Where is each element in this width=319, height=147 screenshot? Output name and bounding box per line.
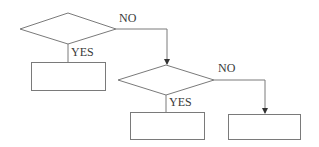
decision-diamond-1 [20, 13, 116, 44]
flowchart [0, 0, 319, 147]
arrowhead-icon [262, 108, 268, 114]
edge-label-yes-1: YES [71, 46, 94, 58]
process-box-2 [131, 113, 205, 140]
edge-label-yes-2: YES [169, 96, 192, 108]
arrowhead-icon [164, 59, 170, 65]
decision-diamond-2 [118, 65, 214, 95]
edge-label-no-2: NO [218, 62, 235, 74]
connector-no-2 [214, 80, 265, 113]
connector-no-1 [116, 29, 167, 64]
process-box-1 [32, 63, 106, 91]
edge-label-no-1: NO [119, 12, 136, 24]
process-box-3 [229, 115, 301, 140]
